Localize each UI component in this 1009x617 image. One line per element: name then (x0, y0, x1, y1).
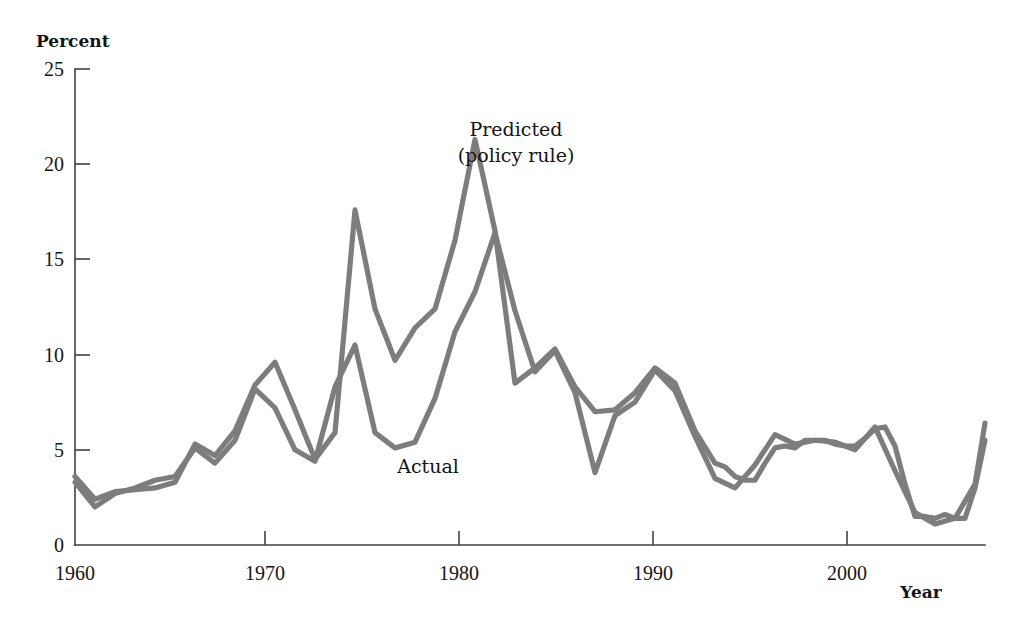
x-axis-title: Year (899, 582, 942, 602)
y-axis-tick-labels: 25 20 15 10 5 0 (44, 58, 64, 556)
series-layer (75, 139, 985, 524)
x-tick-label-1970: 1970 (245, 562, 285, 584)
y-axis-title: Percent (36, 31, 110, 51)
x-axis-tick-labels: 1960 1970 1980 1990 2000 (55, 562, 867, 584)
x-tick-label-2000: 2000 (827, 562, 867, 584)
y-tick-label-5: 5 (54, 439, 64, 461)
chart-figure: Percent 25 20 15 10 5 0 (0, 0, 1009, 617)
y-axis-ticks (75, 69, 90, 450)
x-axis-ticks (265, 531, 847, 545)
predicted-series-label-line2: (policy rule) (458, 144, 575, 166)
actual-series-label: Actual (396, 455, 459, 477)
line-chart-canvas: Percent 25 20 15 10 5 0 (0, 0, 1009, 617)
y-tick-label-20: 20 (44, 153, 64, 175)
x-tick-label-1990: 1990 (633, 562, 673, 584)
x-tick-label-1960: 1960 (55, 562, 95, 584)
y-tick-label-25: 25 (44, 58, 64, 80)
y-tick-label-0: 0 (54, 534, 64, 556)
y-tick-label-15: 15 (44, 248, 64, 270)
x-tick-label-1980: 1980 (439, 562, 479, 584)
predicted-series-label-line1: Predicted (469, 118, 562, 140)
y-tick-label-10: 10 (44, 344, 64, 366)
actual-line (75, 233, 985, 524)
